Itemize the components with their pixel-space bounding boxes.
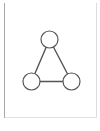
triangle-graph-diagram xyxy=(0,0,100,131)
graph-edge-top-to-bottom-left xyxy=(35,47,46,73)
diagram-panel xyxy=(0,0,100,131)
graph-node-bottom-right xyxy=(63,73,80,90)
graph-node-top xyxy=(41,31,58,48)
graph-edges xyxy=(35,47,68,81)
graph-node-bottom-left xyxy=(23,73,40,90)
graph-edge-top-to-bottom-right xyxy=(53,47,67,74)
